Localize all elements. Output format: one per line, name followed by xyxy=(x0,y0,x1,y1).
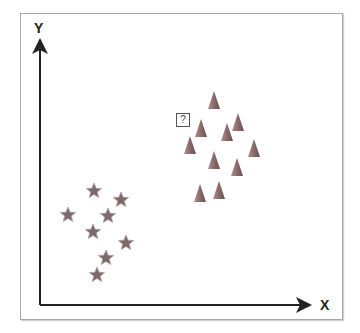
star-icon xyxy=(86,183,101,198)
triangle-class-points xyxy=(184,91,260,202)
triangle-icon xyxy=(231,158,243,176)
star-icon xyxy=(85,224,100,239)
triangle-icon xyxy=(208,151,220,169)
triangle-icon xyxy=(184,136,196,154)
triangle-icon xyxy=(194,184,206,202)
query-point-box: ? xyxy=(176,113,190,127)
x-axis-label: X xyxy=(320,297,329,313)
triangle-icon xyxy=(208,91,220,109)
y-axis-label: Y xyxy=(34,20,43,36)
star-icon xyxy=(89,267,104,282)
star-icon xyxy=(113,192,128,207)
triangle-icon xyxy=(221,123,233,141)
star-class-points xyxy=(60,183,133,282)
triangle-icon xyxy=(232,113,244,131)
scatter-plot xyxy=(0,0,360,333)
star-icon xyxy=(100,208,115,223)
star-icon xyxy=(98,250,113,265)
triangle-icon xyxy=(195,119,207,137)
triangle-icon xyxy=(248,139,260,157)
star-icon xyxy=(60,207,75,222)
triangle-icon xyxy=(213,181,225,199)
star-icon xyxy=(118,235,133,250)
